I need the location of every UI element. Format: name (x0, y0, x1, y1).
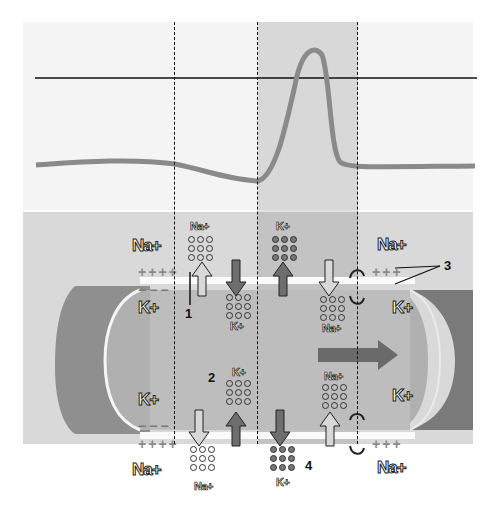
na-ion (338, 314, 345, 321)
k-ion (270, 446, 277, 453)
k-ion-cluster-bottom-2 (226, 380, 251, 405)
dashed-divider-2 (257, 22, 258, 444)
na-ion-cluster-bottom-4 (322, 384, 347, 409)
callout-number-1: 1 (185, 306, 192, 321)
ion-label-outside-top-left: Na+ (132, 236, 161, 256)
k-ion (272, 245, 279, 252)
na-ion (320, 296, 327, 303)
k-ion (288, 446, 295, 453)
na-ion (340, 393, 347, 400)
k-ion (270, 464, 277, 471)
plus-charge: + (372, 264, 382, 280)
k-ion (226, 389, 233, 396)
plus-charge: + (382, 264, 392, 280)
minus-charge: − (138, 282, 149, 298)
na-ion-cluster-top-4 (320, 296, 345, 321)
na-ion (190, 464, 197, 471)
k-ion (244, 312, 251, 319)
na-ion (208, 446, 215, 453)
k-ion (290, 254, 297, 261)
plus-charge: + (148, 264, 158, 280)
k-ion (226, 294, 233, 301)
plus-charge: + (372, 436, 382, 452)
na-ion (329, 314, 336, 321)
na-ion (322, 393, 329, 400)
na-ion (331, 393, 338, 400)
k-ion (244, 398, 251, 405)
k-ion (235, 389, 242, 396)
na-ion (331, 402, 338, 409)
na-ion (188, 245, 195, 252)
k-ion (281, 254, 288, 261)
ion-label-inside-top-right: K+ (392, 298, 412, 318)
k-ion (272, 236, 279, 243)
k-ion-cluster-top-2 (226, 294, 251, 319)
na-ion (188, 254, 195, 261)
ion-label-inside-top-left: K+ (138, 298, 158, 318)
k-ion (235, 380, 242, 387)
callout-number-4: 4 (305, 458, 312, 473)
na-ion (206, 245, 213, 252)
na-ion (188, 236, 195, 243)
ion-label-outside-bottom-left: Na+ (132, 460, 161, 480)
channel-label-c3-top: K+ (276, 220, 289, 232)
na-ion (340, 402, 347, 409)
minus-charge: − (160, 282, 171, 298)
na-ion (199, 455, 206, 462)
k-ion (235, 398, 242, 405)
graph-svg (0, 0, 496, 513)
plus-charge: + (392, 436, 402, 452)
minus-charge: − (138, 418, 149, 434)
k-ion (244, 303, 251, 310)
curved-arrow-bottom-out (350, 446, 364, 454)
plus-charge: + (138, 436, 148, 452)
na-ion (338, 296, 345, 303)
na-ion (329, 296, 336, 303)
k-ion (272, 254, 279, 261)
minus-charge: − (160, 418, 171, 434)
na-ion (197, 236, 204, 243)
k-ion (244, 389, 251, 396)
plus-charge: + (392, 264, 402, 280)
k-ion (226, 398, 233, 405)
k-ion (226, 380, 233, 387)
k-ion-cluster-top-3 (272, 236, 297, 261)
na-ion (197, 254, 204, 261)
channel-label-c2-bottom: K+ (232, 366, 245, 378)
k-ion (281, 245, 288, 252)
na-ion (320, 314, 327, 321)
k-ion (279, 446, 286, 453)
na-ion (208, 455, 215, 462)
na-ion (322, 402, 329, 409)
plus-charge: + (158, 264, 168, 280)
k-ion (235, 303, 242, 310)
plus-charge: + (138, 264, 148, 280)
k-ion (270, 455, 277, 462)
charge-row-bottom-outside: ++++ (138, 436, 179, 452)
k-ion (244, 380, 251, 387)
na-ion-cluster-top-1 (188, 236, 213, 261)
na-ion-cluster-bottom-1 (190, 446, 215, 471)
k-ion (235, 294, 242, 301)
minus-charge: − (149, 282, 160, 298)
k-ion (279, 464, 286, 471)
callout-number-2: 2 (208, 370, 215, 385)
action-potential-trace (36, 50, 475, 181)
channel-label-c2-top: K+ (230, 320, 243, 332)
na-ion (206, 236, 213, 243)
na-ion (190, 455, 197, 462)
k-ion (288, 464, 295, 471)
na-ion (197, 245, 204, 252)
k-ion (288, 455, 295, 462)
channel-label-c3-bottom: K+ (276, 476, 289, 488)
charge-row-top-outside: ++++ (138, 264, 408, 280)
k-ion (226, 303, 233, 310)
dashed-divider-3 (357, 22, 358, 444)
na-ion (322, 384, 329, 391)
na-ion (206, 254, 213, 261)
ion-label-outside-top-right: Na+ (377, 235, 406, 255)
k-ion (281, 236, 288, 243)
na-ion (320, 305, 327, 312)
channel-label-c4-bottom: Na+ (324, 370, 343, 382)
na-ion (208, 464, 215, 471)
